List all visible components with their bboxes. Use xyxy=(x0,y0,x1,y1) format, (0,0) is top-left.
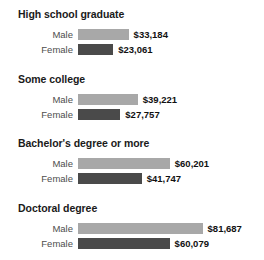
bar-row: Male$33,184 xyxy=(0,28,264,41)
bar-value-label: $60,079 xyxy=(175,237,209,250)
series-label: Male xyxy=(0,157,73,170)
bar-female xyxy=(78,238,170,249)
series-label: Male xyxy=(0,93,73,106)
bar-male xyxy=(78,94,138,105)
group-title: High school graduate xyxy=(18,8,124,20)
bar-row: Female$23,061 xyxy=(0,43,264,56)
bar-row: Male$60,201 xyxy=(0,157,264,170)
bar-value-label: $41,747 xyxy=(147,172,181,185)
bar-value-label: $81,687 xyxy=(208,222,242,235)
series-label: Female xyxy=(0,237,73,250)
bar-row: Male$81,687 xyxy=(0,222,264,235)
group-title: Doctoral degree xyxy=(18,202,97,214)
bar-row: Female$41,747 xyxy=(0,172,264,185)
bar-row: Female$60,079 xyxy=(0,237,264,250)
series-label: Male xyxy=(0,222,73,235)
bar-female xyxy=(78,44,113,55)
bar-row: Male$39,221 xyxy=(0,93,264,106)
group-title: Some college xyxy=(18,73,85,85)
bar-female xyxy=(78,173,142,184)
bar-female xyxy=(78,109,120,120)
bar-value-label: $27,757 xyxy=(125,108,159,121)
bar-value-label: $33,184 xyxy=(134,28,168,41)
bar-value-label: $60,201 xyxy=(175,157,209,170)
bar-value-label: $39,221 xyxy=(143,93,177,106)
earnings-by-education-bar-chart: High school graduateMale$33,184Female$23… xyxy=(0,0,264,260)
bar-male xyxy=(78,158,170,169)
bar-male xyxy=(78,223,203,234)
series-label: Male xyxy=(0,28,73,41)
series-label: Female xyxy=(0,43,73,56)
bar-value-label: $23,061 xyxy=(118,43,152,56)
group-title: Bachelor's degree or more xyxy=(18,137,149,149)
bar-row: Female$27,757 xyxy=(0,108,264,121)
series-label: Female xyxy=(0,108,73,121)
series-label: Female xyxy=(0,172,73,185)
bar-male xyxy=(78,29,129,40)
